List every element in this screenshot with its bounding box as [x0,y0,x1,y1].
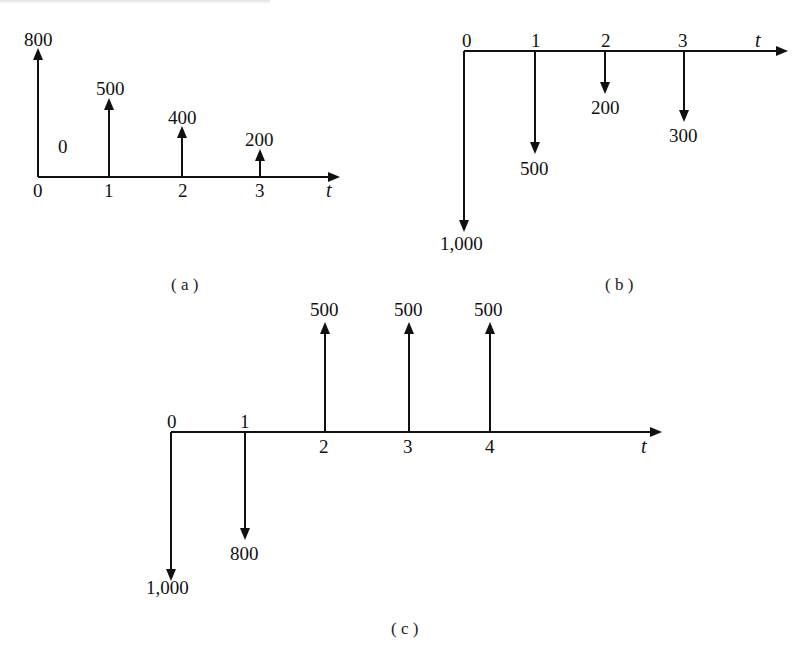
tick-2: 2 [178,180,188,201]
flow-value: 300 [669,125,698,146]
arrow-down-icon [600,82,610,94]
arrow-down-icon [240,528,250,540]
flow-value: 0 [58,136,68,157]
flow-value: 500 [394,299,423,320]
flow-value: 200 [245,129,274,150]
tick-1: 1 [104,180,114,201]
flow-value: 500 [310,299,339,320]
arrow-down-icon [530,142,540,154]
flow-value: 500 [520,158,549,179]
flow-value: 1,000 [440,233,483,254]
tick-3: 3 [255,180,265,201]
panel-caption-b: ( b ) [605,275,633,294]
arrow-up-icon [255,149,265,161]
flow-value: 400 [168,107,197,128]
flow-value: 500 [474,299,503,320]
tick-2: 2 [319,436,329,457]
axis-label-t: t [326,179,332,201]
arrow-up-icon [320,322,330,334]
flow-value: 800 [230,543,259,564]
axis-label-t: t [641,435,647,457]
panel-caption-a: ( a ) [171,275,198,294]
panel-b: t 0 1 2 3 1,000 500 200 300 ( b ) [440,29,788,294]
arrow-down-icon [459,220,469,232]
axis-label-t: t [755,29,761,51]
tick-3: 3 [678,30,688,51]
panel-caption-c: ( c ) [391,619,418,638]
panel-a: t 0 1 2 3 800 0 500 400 200 ( a ) [24,29,340,294]
tick-3: 3 [403,436,413,457]
arrow-up-icon [104,98,114,110]
flow-value: 500 [96,78,125,99]
flow-value: 800 [24,29,53,50]
cash-flow-diagrams: t 0 1 2 3 800 0 500 400 200 ( a ) t 0 1 … [0,0,806,648]
arrow-up-icon [485,322,495,334]
flow-value: 1,000 [146,577,189,598]
tick-0: 0 [462,30,472,51]
flow-value: 200 [591,97,620,118]
panel-c: t 0 1 2 3 4 1,000 800 500 500 500 ( c ) [146,299,662,638]
tick-0: 0 [33,180,43,201]
axis-arrow-icon [776,46,788,56]
axis-arrow-icon [650,427,662,437]
tick-1: 1 [531,30,541,51]
tick-2: 2 [601,30,611,51]
arrow-down-icon [679,110,689,122]
tick-4: 4 [485,436,495,457]
tick-1: 1 [240,411,250,432]
tick-0: 0 [167,411,177,432]
arrow-up-icon [404,322,414,334]
